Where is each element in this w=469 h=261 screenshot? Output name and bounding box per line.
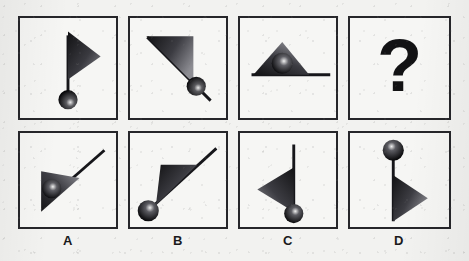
option-c-figure: [240, 133, 336, 227]
option-d-figure: [350, 133, 449, 227]
sequence-panel-missing[interactable]: ?: [348, 16, 451, 120]
sequence-panel-2[interactable]: [128, 16, 228, 120]
option-a-ball: [42, 179, 61, 198]
panel-1-triangle: [68, 32, 101, 80]
option-d-triangle: [393, 175, 428, 221]
panel-3-ball: [272, 53, 293, 74]
panel-2-ball: [187, 77, 206, 96]
option-label-a: A: [18, 233, 118, 248]
option-c-ball: [284, 204, 303, 223]
panel-1-ball: [58, 90, 77, 109]
answer-option-c[interactable]: [238, 131, 338, 229]
option-a-figure: [20, 133, 116, 227]
option-label-b: B: [128, 233, 228, 248]
option-label-d: D: [349, 233, 449, 248]
option-b-figure: [130, 133, 226, 227]
answer-option-a[interactable]: [18, 131, 118, 229]
option-c-triangle: [257, 168, 293, 212]
option-label-c: C: [238, 233, 338, 248]
puzzle-sheet: ?: [0, 0, 469, 261]
panel-2-figure: [130, 18, 226, 118]
sequence-panel-1[interactable]: [18, 16, 118, 120]
panel-1-figure: [20, 18, 116, 118]
option-b-ball: [138, 200, 159, 221]
option-d-ball: [383, 140, 404, 161]
panel-3-figure: [240, 18, 336, 118]
question-mark-glyph: ?: [350, 18, 449, 118]
answer-option-b[interactable]: [128, 131, 228, 229]
sequence-panel-3[interactable]: [238, 16, 338, 120]
answer-option-d[interactable]: [348, 131, 451, 229]
